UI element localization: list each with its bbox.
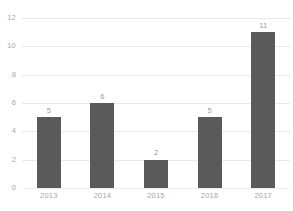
x-axis-tick-label: 2013	[22, 192, 76, 200]
bar[interactable]	[37, 117, 61, 188]
y-axis-tick-label: 6	[0, 99, 16, 107]
bar[interactable]	[90, 103, 114, 188]
bar[interactable]	[144, 160, 168, 188]
x-axis-tick-label: 2016	[183, 192, 237, 200]
plot-area: 562511	[22, 18, 290, 188]
y-axis-tick-label: 10	[0, 43, 16, 51]
bar-value-label: 2	[154, 149, 158, 157]
bar-value-label: 5	[208, 107, 212, 115]
bar-slot: 6	[76, 18, 130, 188]
x-axis-tick-label: 2014	[76, 192, 130, 200]
bar-value-label: 11	[259, 22, 267, 30]
bar[interactable]	[251, 32, 275, 188]
y-axis-tick-label: 0	[0, 184, 16, 192]
y-axis-tick-label: 4	[0, 128, 16, 136]
bar-slot: 11	[236, 18, 290, 188]
bar-chart: 562511 024681012 20132014201520162017	[0, 0, 293, 211]
y-axis-tick-label: 8	[0, 71, 16, 79]
bar-value-label: 6	[100, 93, 104, 101]
x-axis-tick-label: 2015	[129, 192, 183, 200]
bar-slot: 5	[183, 18, 237, 188]
x-axis-line	[22, 188, 290, 189]
x-axis-tick-label: 2017	[236, 192, 290, 200]
y-axis-tick-label: 12	[0, 14, 16, 22]
bar-value-label: 5	[47, 107, 51, 115]
y-axis-tick-label: 2	[0, 156, 16, 164]
bar[interactable]	[198, 117, 222, 188]
bar-slot: 5	[22, 18, 76, 188]
bar-slot: 2	[129, 18, 183, 188]
